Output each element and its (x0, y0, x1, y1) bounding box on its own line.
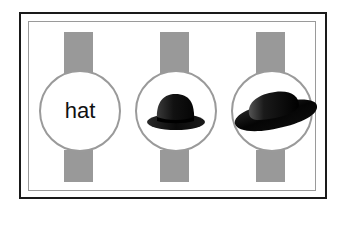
bowler-hat-icon (137, 72, 215, 150)
bar-bottom-3 (256, 150, 285, 182)
wide-brim-hat-icon (233, 72, 311, 150)
bar-bottom-1 (64, 150, 93, 182)
wide-brim-hat-circle[interactable] (231, 70, 313, 152)
bar-bottom-2 (160, 150, 189, 182)
text-circle[interactable]: hat (39, 70, 121, 152)
hat-label: hat (65, 98, 96, 124)
bowler-hat-circle[interactable] (135, 70, 217, 152)
